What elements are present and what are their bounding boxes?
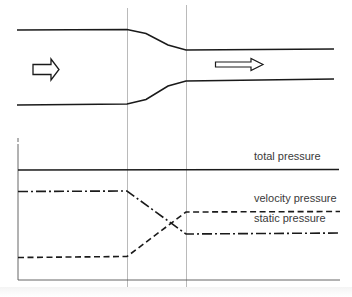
pipe-pressure-diagram: [0, 0, 352, 297]
pipe-top-wall: [17, 30, 334, 51]
velocity-pressure-label: velocity pressure: [254, 193, 337, 204]
total-pressure-label: total pressure: [254, 151, 321, 162]
pipe-bottom-wall: [17, 79, 334, 105]
inlet-flow-arrow: [33, 59, 59, 80]
outlet-flow-arrow: [216, 59, 264, 71]
static-pressure-label: static pressure: [254, 213, 326, 224]
total-pressure-line: [18, 170, 339, 171]
page-edge-shadow: [0, 287, 352, 297]
